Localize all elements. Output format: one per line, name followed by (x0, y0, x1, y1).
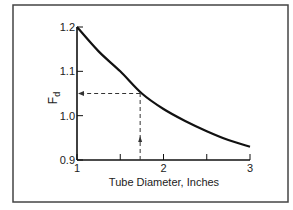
y-tick-label: 1.0 (60, 110, 75, 122)
y-tick-label: 1.2 (60, 21, 75, 33)
plot-area: 0.91.01.11.2123 (60, 21, 253, 174)
x-tick-label: 3 (247, 162, 253, 174)
fd-curve (77, 27, 250, 147)
x-tick-label: 1 (74, 162, 80, 174)
arrow-left-icon (78, 91, 84, 96)
y-tick-label: 0.9 (60, 154, 75, 166)
arrow-up-icon (138, 136, 142, 142)
chart: 0.91.01.11.2123 Fd Tube Diameter, Inches (0, 0, 293, 210)
y-axis-label: Fd (46, 92, 62, 104)
y-tick-label: 1.1 (60, 65, 75, 77)
x-axis-label: Tube Diameter, Inches (109, 176, 220, 188)
x-tick-label: 2 (160, 162, 166, 174)
